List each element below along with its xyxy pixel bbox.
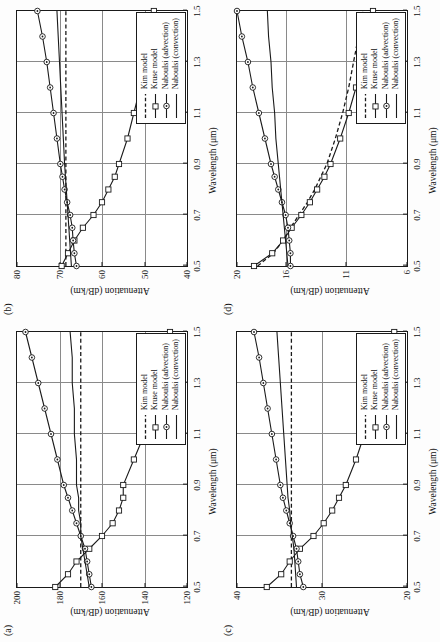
legend-key-dashed-line [361, 93, 370, 119]
panel-d-tag: (d) [222, 303, 233, 315]
y-tick-label: 140 [140, 587, 150, 605]
panel-b-plot: 40506070800.50.70.91.11.31.5Kim modelKru… [16, 10, 188, 267]
legend-key-solid-line [172, 93, 181, 119]
x-tick-label: 1.3 [187, 377, 202, 388]
legend-item: Naboulsi (convection) [391, 339, 402, 440]
legend-label: Naboulsi (advection) [161, 343, 172, 410]
panel-a-xlabel: Wavelength (μm) [208, 321, 218, 642]
x-tick-label: 0.7 [187, 530, 202, 541]
x-tick-label: 0.7 [187, 209, 202, 220]
x-tick-label: 1.1 [187, 107, 202, 118]
legend-item: Kim model [360, 18, 371, 119]
legend-key-dashed-line [361, 414, 370, 440]
panel-b-ylabel: Attenuation (dB/km) [50, 286, 170, 296]
panel-a-ylabel: Attenuation (dB/km) [50, 607, 170, 617]
panel-c-tag: (c) [222, 625, 233, 636]
legend-item: Naboulsi (advection) [381, 339, 392, 440]
x-tick-label: 0.7 [407, 209, 422, 220]
x-tick-label: 1.3 [407, 56, 422, 67]
legend: Kim modelKruse modelNaboulsi (advection)… [356, 333, 406, 445]
legend-label: Kruse model [370, 48, 381, 89]
series-line-kim-model [258, 11, 364, 266]
legend-item: Kruse model [150, 339, 161, 440]
legend-item: Kruse model [370, 18, 381, 119]
legend-label: Naboulsi (convection) [171, 339, 182, 410]
panel-d-ylabel: Attenuation (dB/km) [270, 286, 390, 296]
legend-label: Naboulsi (convection) [171, 18, 182, 89]
legend-label: Naboulsi (advection) [161, 22, 172, 89]
x-tick-label: 0.5 [187, 260, 202, 271]
legend-label: Kim model [360, 53, 371, 89]
legend-key-square-marker [371, 93, 380, 119]
legend: Kim modelKruse modelNaboulsi (advection)… [136, 333, 186, 445]
x-tick-label: 0.9 [407, 479, 422, 490]
legend-label: Kruse model [150, 369, 161, 410]
panel-b: (b) Attenuation (dB/km) 40506070800.50.7… [0, 0, 220, 321]
legend-key-circle-marker [382, 414, 391, 440]
series-line-naboulsi-convection [267, 11, 288, 266]
panel-c-xlabel: Wavelength (μm) [428, 321, 438, 642]
legend-item: Kim model [360, 339, 371, 440]
panel-d-xlabel: Wavelength (μm) [428, 0, 438, 321]
x-tick-label: 1.5 [407, 326, 422, 337]
legend-label: Naboulsi (advection) [381, 22, 392, 89]
legend-label: Kruse model [150, 48, 161, 89]
x-tick-label: 1.5 [407, 5, 422, 16]
legend-label: Naboulsi (convection) [391, 339, 402, 410]
legend-item: Kim model [140, 18, 151, 119]
x-tick-label: 1.1 [187, 428, 202, 439]
legend-item: Kruse model [370, 339, 381, 440]
y-tick-label: 80 [12, 266, 22, 279]
figure-stage: (a) Attenuation (dB/km) 1201401601802000… [0, 0, 440, 642]
x-tick-label: 1.5 [187, 5, 202, 16]
x-tick-label: 1.5 [187, 326, 202, 337]
legend: Kim modelKruse modelNaboulsi (advection)… [356, 12, 406, 124]
x-tick-label: 0.9 [187, 158, 202, 169]
y-tick-label: 40 [232, 587, 242, 600]
y-tick-label: 200 [12, 587, 22, 605]
legend-key-dashed-line [141, 414, 150, 440]
x-tick-label: 1.1 [407, 428, 422, 439]
panel-a: (a) Attenuation (dB/km) 1201401601802000… [0, 321, 220, 642]
legend-label: Kruse model [370, 369, 381, 410]
x-tick-label: 0.5 [187, 581, 202, 592]
x-tick-label: 1.3 [187, 56, 202, 67]
y-tick-label: 160 [97, 587, 107, 605]
legend-key-solid-line [392, 93, 401, 119]
legend-label: Naboulsi (convection) [391, 18, 402, 89]
y-tick-label: 11 [341, 266, 351, 279]
legend-key-circle-marker [162, 93, 171, 119]
legend-item: Naboulsi (advection) [161, 18, 172, 119]
y-tick-label: 30 [317, 587, 327, 600]
y-tick-label: 60 [97, 266, 107, 279]
panel-c-ylabel: Attenuation (dB/km) [270, 607, 390, 617]
panel-c: (c) Attenuation (dB/km) 2030400.50.70.91… [220, 321, 440, 642]
series-markers [251, 329, 306, 590]
legend-item: Naboulsi (advection) [381, 18, 392, 119]
legend-key-square-marker [151, 414, 160, 440]
legend-key-circle-marker [162, 414, 171, 440]
legend-item: Naboulsi (advection) [161, 339, 172, 440]
legend-key-dashed-line [141, 93, 150, 119]
legend-key-square-marker [151, 93, 160, 119]
legend-key-solid-line [172, 414, 181, 440]
x-tick-label: 0.7 [407, 530, 422, 541]
panel-a-tag: (a) [2, 625, 13, 636]
y-tick-label: 50 [140, 266, 150, 279]
legend-key-solid-line [392, 414, 401, 440]
legend-item: Naboulsi (convection) [391, 18, 402, 119]
x-tick-label: 1.3 [407, 377, 422, 388]
series-line-naboulsi-convection [277, 332, 297, 587]
legend-item: Kruse model [150, 18, 161, 119]
legend-key-circle-marker [382, 93, 391, 119]
y-tick-label: 20 [232, 266, 242, 279]
legend-item: Kim model [140, 339, 151, 440]
panel-d-plot: 61116200.50.70.91.11.31.5Kim modelKruse … [236, 10, 408, 267]
x-tick-label: 0.9 [407, 158, 422, 169]
x-tick-label: 1.1 [407, 107, 422, 118]
legend: Kim modelKruse modelNaboulsi (advection)… [136, 12, 186, 124]
panel-b-xlabel: Wavelength (μm) [208, 0, 218, 321]
legend-item: Naboulsi (convection) [171, 18, 182, 119]
legend-label: Kim model [140, 374, 151, 410]
legend-label: Kim model [360, 374, 371, 410]
